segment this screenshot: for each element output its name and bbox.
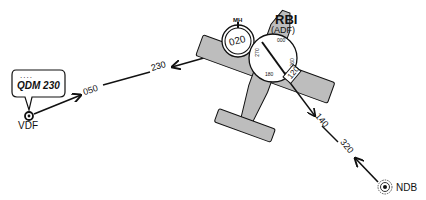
- mh-label: MH: [233, 17, 242, 23]
- vdf-line-outbound: [34, 95, 81, 114]
- rbi-tick-270: 270: [255, 48, 260, 56]
- ndb-line-middle: [322, 126, 338, 142]
- ndb-station-icon: [378, 180, 392, 194]
- vdf-label: VDF: [18, 121, 38, 131]
- callout-dots: ....: [20, 72, 33, 80]
- rbi-subtitle: (ADF): [271, 26, 295, 35]
- ndb-line-inbound: [355, 158, 378, 182]
- rbi-tick-180: 180: [265, 72, 273, 77]
- vdf-line-middle: [103, 72, 150, 85]
- diagram-canvas: [0, 0, 426, 200]
- ndb-label: NDB: [396, 183, 417, 193]
- rbi-tick-000: 000: [277, 38, 285, 43]
- qdm-label: QDM 230: [17, 81, 60, 91]
- rbi-tick-090: 090: [289, 58, 294, 66]
- vdf-station-icon: [25, 112, 33, 120]
